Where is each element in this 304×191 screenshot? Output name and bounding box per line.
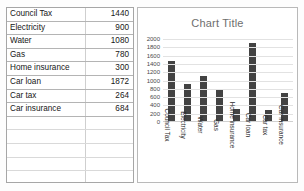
table-row[interactable]: Gas780 [7, 49, 133, 63]
cell-label[interactable]: Water [7, 35, 86, 48]
x-axis-tick-label: Car loan [245, 113, 252, 137]
cell-value-empty[interactable] [86, 144, 133, 157]
cell-label-empty[interactable] [7, 171, 86, 183]
x-axis-tick-slot: Council Tax [168, 123, 175, 179]
table-row[interactable]: Home insurance300 [7, 62, 133, 76]
y-axis-tick-label: 1000 [147, 78, 160, 84]
x-axis-tick-label: Electricity [180, 111, 187, 138]
plot-canvas [163, 39, 293, 122]
y-axis[interactable]: 2000180016001400120010008006004002000 [142, 39, 161, 122]
spreadsheet-grid[interactable]: Council Tax1440Electricity900Water1080Ga… [6, 7, 134, 183]
cell-value[interactable]: 300 [86, 62, 133, 75]
table-row-empty[interactable] [7, 144, 133, 158]
gridline [163, 105, 293, 106]
plot-area: 2000180016001400120010008006004002000 Co… [142, 39, 295, 179]
table-row[interactable]: Car insurance684 [7, 103, 133, 117]
gridline [163, 81, 293, 82]
x-axis-tick-slot: Electricity [184, 123, 191, 179]
cell-value[interactable]: 900 [86, 22, 133, 35]
gridline [163, 64, 293, 65]
x-axis-tick-slot: Car insurance [281, 123, 288, 179]
cell-value[interactable]: 1440 [86, 8, 133, 21]
gridline [163, 39, 293, 40]
cell-label[interactable]: Electricity [7, 22, 86, 35]
gridline [163, 47, 293, 48]
x-axis-tick-label: Water [197, 117, 204, 134]
gridline [163, 72, 293, 73]
chart-object[interactable]: Chart Title 2000180016001400120010008006… [137, 7, 298, 183]
cell-label-empty[interactable] [7, 158, 86, 171]
cell-label-empty[interactable] [7, 130, 86, 143]
gridline [163, 56, 293, 57]
x-axis-tick-label: Car insurance [278, 105, 285, 145]
cell-value[interactable]: 1080 [86, 35, 133, 48]
y-axis-tick-label: 1400 [147, 61, 160, 67]
table-row-empty[interactable] [7, 130, 133, 144]
cell-label[interactable]: Car insurance [7, 103, 86, 116]
y-axis-tick-label: 800 [150, 86, 160, 92]
x-axis-tick-slot: Water [200, 123, 207, 179]
cell-label[interactable]: Council Tax [7, 8, 86, 21]
x-axis-tick-slot: Home insurance [233, 123, 240, 179]
x-axis-tick-label: Car tax [262, 115, 269, 136]
cell-value-empty[interactable] [86, 130, 133, 143]
cell-label[interactable]: Home insurance [7, 62, 86, 75]
y-axis-tick-label: 200 [150, 111, 160, 117]
cell-label[interactable]: Car loan [7, 76, 86, 89]
y-axis-tick-label: 400 [150, 102, 160, 108]
cell-value-empty[interactable] [86, 171, 133, 183]
y-axis-tick-label: 0 [157, 119, 160, 125]
y-axis-tick-label: 2000 [147, 36, 160, 42]
cell-value[interactable]: 780 [86, 49, 133, 62]
gridline [163, 89, 293, 90]
x-axis-tick-slot: Gas [216, 123, 223, 179]
x-axis-tick-slot: Car tax [265, 123, 272, 179]
y-axis-tick-label: 1600 [147, 53, 160, 59]
table-row[interactable]: Council Tax1440 [7, 8, 133, 22]
gridline [163, 97, 293, 98]
table-row-empty[interactable] [7, 158, 133, 172]
x-axis-tick-label: Home insurance [229, 102, 236, 149]
cell-label-empty[interactable] [7, 117, 86, 130]
cell-label[interactable]: Car tax [7, 90, 86, 103]
table-row[interactable]: Electricity900 [7, 22, 133, 36]
y-axis-tick-label: 1800 [147, 44, 160, 50]
y-axis-tick-label: 1200 [147, 69, 160, 75]
table-row[interactable]: Water1080 [7, 35, 133, 49]
cell-value-empty[interactable] [86, 158, 133, 171]
table-row-empty[interactable] [7, 117, 133, 131]
cell-label-empty[interactable] [7, 144, 86, 157]
x-axis[interactable]: Council TaxElectricityWaterGasHome insur… [163, 123, 293, 179]
cell-value[interactable]: 684 [86, 103, 133, 116]
x-axis-tick-label: Gas [213, 119, 220, 131]
excel-worksheet-screenshot: Council Tax1440Electricity900Water1080Ga… [0, 0, 304, 191]
table-row-empty[interactable] [7, 171, 133, 183]
cell-label[interactable]: Gas [7, 49, 86, 62]
x-axis-tick-label: Council Tax [164, 109, 171, 142]
chart-title[interactable]: Chart Title [138, 17, 297, 29]
x-axis-tick-slot: Car loan [249, 123, 256, 179]
table-row[interactable]: Car tax264 [7, 90, 133, 104]
cell-value-empty[interactable] [86, 117, 133, 130]
cell-value[interactable]: 1872 [86, 76, 133, 89]
cell-value[interactable]: 264 [86, 90, 133, 103]
table-row[interactable]: Car loan1872 [7, 76, 133, 90]
y-axis-tick-label: 600 [150, 94, 160, 100]
